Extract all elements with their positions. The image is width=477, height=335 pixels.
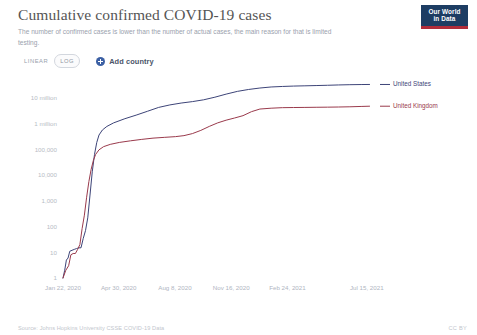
y-tick-label: 10 million (31, 94, 58, 101)
page-title: Cumulative confirmed COVID-19 cases (18, 6, 465, 23)
add-country-button[interactable]: Add country (96, 57, 154, 66)
series-lines[interactable] (63, 84, 370, 278)
chart-plot-area[interactable]: 1101001,00010,000100,0001 million10 mill… (0, 66, 477, 306)
y-tick-label: 10,000 (38, 171, 57, 178)
y-axis-tick-labels: 1101001,00010,000100,0001 million10 mill… (31, 94, 58, 281)
series-line[interactable] (63, 84, 370, 278)
x-tick-label: Nov 16, 2020 (213, 284, 250, 291)
x-tick-label: Apr 30, 2020 (101, 284, 137, 291)
page-subtitle: The number of confirmed cases is lower t… (18, 27, 348, 47)
x-tick-label: Jan 22, 2020 (45, 284, 81, 291)
y-tick-label: 100 (47, 223, 58, 230)
plus-circle-icon (96, 57, 105, 66)
y-tick-label: 10 (50, 249, 57, 256)
grapher-chart-panel: Cumulative confirmed COVID-19 cases The … (0, 0, 477, 335)
series-label: United Kingdom (393, 102, 438, 110)
x-tick-label: Feb 24, 2021 (269, 284, 306, 291)
series-line[interactable] (63, 106, 370, 278)
chart-footer: Source: Johns Hopkins University CSSE CO… (18, 325, 467, 331)
add-country-label: Add country (109, 57, 154, 66)
owid-logo[interactable]: Our World in Data (421, 5, 468, 29)
y-tick-label: 1 million (34, 120, 57, 127)
series-inline-labels: United StatesUnited Kingdom (380, 80, 438, 110)
x-tick-label: Aug 8, 2020 (158, 284, 192, 291)
series-label: United States (393, 80, 431, 87)
owid-logo-line2: in Data (433, 16, 455, 23)
x-axis-tick-labels: Jan 22, 2020Apr 30, 2020Aug 8, 2020Nov 1… (45, 284, 384, 291)
y-tick-label: 100,000 (35, 146, 58, 153)
license-note: CC BY (448, 325, 467, 331)
y-tick-label: 1 (54, 274, 58, 281)
chart-header: Cumulative confirmed COVID-19 cases The … (18, 6, 465, 48)
y-tick-label: 1,000 (42, 197, 58, 204)
source-note: Source: Johns Hopkins University CSSE CO… (18, 325, 164, 331)
x-tick-label: Jul 15, 2021 (350, 284, 384, 291)
line-chart-svg[interactable]: 1101001,00010,000100,0001 million10 mill… (0, 66, 477, 306)
